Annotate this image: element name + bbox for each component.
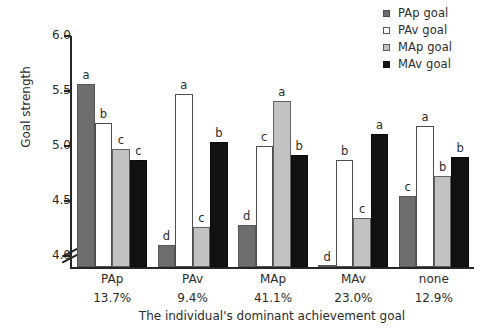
bar[interactable]: a — [175, 94, 193, 267]
bar-significance-letter: c — [359, 202, 365, 216]
bar-significance-letter: b — [100, 107, 107, 121]
bar-significance-letter: c — [135, 144, 141, 158]
legend-item-pap: PAp goal — [383, 6, 452, 20]
bar-significance-letter: c — [118, 133, 124, 147]
bar[interactable]: b — [95, 123, 113, 267]
bar-group: dacb — [158, 36, 228, 267]
legend-swatch-icon — [383, 27, 390, 34]
bar-significance-letter: b — [456, 141, 463, 155]
y-tick-mark — [64, 35, 71, 37]
x-category-percentage: 12.9% — [389, 291, 479, 305]
bar[interactable]: b — [291, 155, 309, 267]
bar-significance-letter: a — [376, 118, 383, 132]
x-axis-line — [70, 267, 474, 269]
x-axis-title: The individual's dominant achievement go… — [70, 309, 474, 323]
x-category-label: none — [389, 272, 479, 286]
bar[interactable]: b — [336, 160, 354, 267]
bar-significance-letter: b — [296, 139, 303, 153]
plot-area: abccdacbdcabdbcacabb — [72, 36, 474, 267]
legend-label: PAv goal — [398, 23, 447, 37]
bar-significance-letter: a — [422, 110, 429, 124]
bar[interactable]: a — [77, 84, 95, 267]
x-category-percentage: 41.1% — [228, 291, 318, 305]
bar[interactable]: c — [256, 146, 274, 267]
bar-significance-letter: d — [243, 209, 250, 223]
bar[interactable]: a — [273, 101, 291, 267]
bar-significance-letter: b — [439, 160, 446, 174]
bar[interactable]: c — [353, 218, 371, 268]
bar[interactable]: d — [158, 245, 176, 267]
bar-significance-letter: c — [261, 130, 267, 144]
bar-significance-letter: d — [163, 229, 170, 243]
x-category-percentage: 13.7% — [67, 291, 157, 305]
bar-significance-letter: b — [215, 126, 222, 140]
y-tick-mark — [64, 200, 71, 202]
bar-group: dbca — [318, 36, 388, 267]
legend-item-pav: PAv goal — [383, 23, 452, 37]
x-category-label: PAv — [148, 272, 238, 286]
bar-significance-letter: c — [198, 211, 204, 225]
bar[interactable]: b — [434, 176, 452, 267]
bar[interactable]: a — [371, 134, 389, 267]
y-tick-mark — [64, 90, 71, 92]
bar-group: dcab — [238, 36, 308, 267]
bar[interactable]: c — [112, 149, 130, 267]
bar[interactable]: b — [210, 142, 228, 267]
x-category-label: MAv — [308, 272, 398, 286]
bar-significance-letter: a — [82, 68, 89, 82]
legend-label: PAp goal — [398, 6, 448, 20]
y-tick-mark — [64, 145, 71, 147]
bar-chart: PAp goal PAv goal MAp goal MAv goal Goal… — [0, 0, 500, 335]
bar-group: cabb — [399, 36, 469, 267]
bar-group: abcc — [77, 36, 147, 267]
x-category-percentage: 9.4% — [148, 291, 238, 305]
bar[interactable]: a — [416, 126, 434, 267]
legend-swatch-icon — [383, 10, 390, 17]
bar-significance-letter: c — [404, 180, 410, 194]
bar-significance-letter: d — [323, 250, 330, 264]
bar-significance-letter: a — [278, 85, 285, 99]
bar[interactable]: b — [451, 157, 469, 267]
bar-significance-letter: b — [341, 144, 348, 158]
bar[interactable]: c — [399, 196, 417, 268]
x-category-label: MAp — [228, 272, 318, 286]
bar-significance-letter: a — [180, 78, 187, 92]
y-axis-title: Goal strength — [19, 37, 33, 177]
bar[interactable]: d — [238, 225, 256, 267]
x-category-percentage: 23.0% — [308, 291, 398, 305]
bar[interactable]: d — [318, 265, 336, 267]
x-category-label: PAp — [67, 272, 157, 286]
bar[interactable]: c — [130, 160, 148, 267]
bar[interactable]: c — [193, 227, 211, 267]
